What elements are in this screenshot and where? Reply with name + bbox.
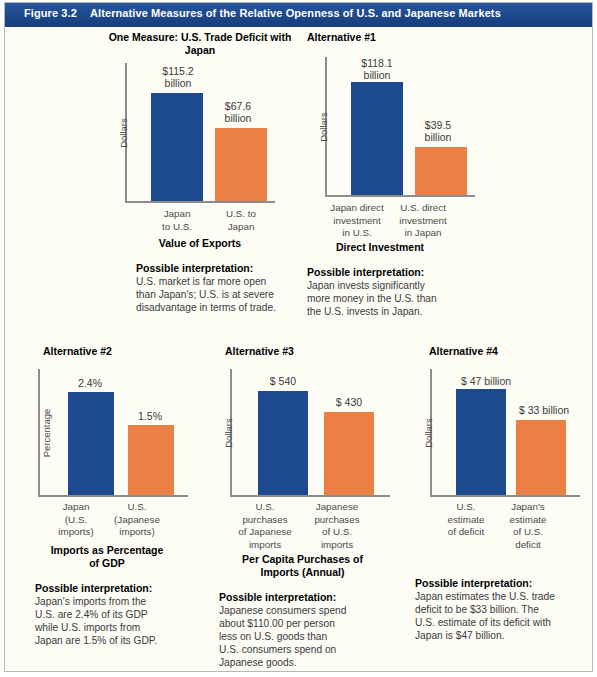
plot-area-alternative-3: Dollars $ 540 $ 430 bbox=[230, 369, 390, 497]
axis-caption-alternative-2: Imports as Percentage of GDP bbox=[23, 544, 191, 570]
chart-title-alternative-3: Alternative #3 bbox=[215, 345, 405, 358]
category-labels-alternative-1: Japan direct investment in U.S. U.S. dir… bbox=[305, 197, 455, 241]
chart-panel-alternative-1: Alternative #1 Dollars $118.1 billion $3… bbox=[305, 31, 495, 318]
chart-panel-alternative-3: Alternative #3 Dollars $ 540 $ 430 U.S. … bbox=[215, 345, 405, 669]
bar-value-label-2: $67.6 billion bbox=[205, 100, 271, 124]
interpretation-alternative-4: Possible interpretation: Japan estimates… bbox=[415, 577, 595, 642]
bar-value-label-1: $118.1 billion bbox=[341, 57, 413, 81]
axis-caption-alternative-1: Direct Investment bbox=[305, 241, 455, 254]
figure-header-text: Figure 3.2Alternative Measures of the Re… bbox=[24, 7, 501, 19]
y-axis-label-alternative-4: Dollars bbox=[423, 418, 434, 448]
bar-value-label-2: 1.5% bbox=[120, 410, 180, 422]
interpretation-body: Japan's imports from the U.S. are 2.4% o… bbox=[35, 595, 203, 647]
bar-japan-direct-investment-us bbox=[351, 82, 403, 195]
category-label-2: U.S. to Japan bbox=[199, 208, 283, 233]
figure-root: Figure 3.2Alternative Measures of the Re… bbox=[0, 0, 597, 677]
bar-value-label-1: $115.2 billion bbox=[143, 65, 213, 89]
chart-title-alternative-4: Alternative #4 bbox=[415, 345, 595, 358]
chart-title-one-measure: One Measure: U.S. Trade Deficit with Jap… bbox=[100, 31, 300, 57]
bar-value-label-1: 2.4% bbox=[60, 377, 120, 389]
plot-area-alternative-1: Dollars $118.1 billion $39.5 billion bbox=[325, 57, 475, 197]
category-labels-alternative-2: Japan (U.S. imports) U.S. (Japanese impo… bbox=[23, 497, 173, 541]
chart-panel-one-measure: One Measure: U.S. Trade Deficit with Jap… bbox=[100, 31, 300, 314]
bar-us-direct-investment-japan bbox=[415, 147, 467, 195]
y-axis-line bbox=[38, 369, 40, 497]
bar-us-purchases-japanese bbox=[258, 391, 308, 495]
figure-title: Alternative Measures of the Relative Ope… bbox=[90, 7, 501, 19]
interpretation-body: Japan invests significantly more money i… bbox=[307, 279, 495, 318]
interpretation-body: Japanese consumers spend about $110.00 p… bbox=[219, 604, 405, 669]
figure-header-bar: Figure 3.2Alternative Measures of the Re… bbox=[5, 3, 592, 27]
category-label-2: U.S. direct investment in Japan bbox=[377, 202, 469, 240]
bar-value-label-2: $ 430 bbox=[316, 396, 382, 408]
interpretation-heading: Possible interpretation: bbox=[136, 262, 300, 275]
category-label-2: Japanese purchases of U.S. imports bbox=[293, 501, 381, 551]
chart-title-alternative-2: Alternative #2 bbox=[23, 345, 203, 358]
chart-title-alternative-1: Alternative #1 bbox=[305, 31, 495, 44]
bar-us-japanese-imports bbox=[128, 425, 174, 495]
bar-japanese-purchases-us bbox=[324, 412, 374, 495]
y-axis-label-alternative-1: Dollars bbox=[318, 112, 329, 142]
interpretation-heading: Possible interpretation: bbox=[415, 577, 595, 590]
plot-area-alternative-2: Percentage 2.4% 1.5% bbox=[38, 369, 188, 497]
chart-panel-alternative-4: Alternative #4 Dollars $ 47 billion $ 33… bbox=[415, 345, 595, 642]
bar-us-to-japan bbox=[215, 128, 267, 201]
category-labels-alternative-3: U.S. purchases of Japanese imports Japan… bbox=[215, 497, 375, 553]
interpretation-alternative-2: Possible interpretation: Japan's imports… bbox=[23, 582, 203, 647]
y-axis-label-one-measure: Dollars bbox=[118, 118, 129, 148]
interpretation-heading: Possible interpretation: bbox=[35, 582, 203, 595]
interpretation-body: U.S. market is far more open than Japan'… bbox=[136, 275, 300, 314]
category-label-2: Japan's estimate of U.S. deficit bbox=[487, 501, 569, 551]
category-labels-alternative-4: U.S. estimate of deficit Japan's estimat… bbox=[415, 497, 565, 555]
category-label-2: U.S. (Japanese imports) bbox=[97, 501, 177, 539]
chart-panel-alternative-2: Alternative #2 Percentage 2.4% 1.5% Japa… bbox=[23, 345, 203, 647]
bar-japan-us-imports bbox=[68, 392, 114, 495]
bar-value-label-2: $39.5 billion bbox=[405, 119, 471, 143]
figure-content: One Measure: U.S. Trade Deficit with Jap… bbox=[5, 27, 592, 671]
category-labels-one-measure: Japan to U.S. U.S. to Japan bbox=[125, 203, 275, 235]
interpretation-alternative-1: Possible interpretation: Japan invests s… bbox=[305, 266, 495, 318]
bar-japan-estimate-us-deficit bbox=[516, 420, 566, 495]
plot-area-alternative-4: Dollars $ 47 billion $ 33 billion bbox=[430, 369, 580, 497]
axis-caption-one-measure: Value of Exports bbox=[100, 237, 300, 250]
interpretation-heading: Possible interpretation: bbox=[307, 266, 495, 279]
axis-caption-alternative-3: Per Capita Purchases of Imports (Annual) bbox=[215, 553, 390, 579]
bar-value-label-2: $ 33 billion bbox=[502, 404, 586, 416]
bar-us-estimate-deficit bbox=[456, 389, 506, 495]
interpretation-body: Japan estimates the U.S. trade deficit t… bbox=[415, 590, 595, 642]
interpretation-alternative-3: Possible interpretation: Japanese consum… bbox=[215, 591, 405, 669]
bar-value-label-1: $ 47 billion bbox=[444, 375, 528, 387]
interpretation-one-measure: Possible interpretation: U.S. market is … bbox=[100, 262, 300, 314]
interpretation-heading: Possible interpretation: bbox=[219, 591, 405, 604]
figure-number: Figure 3.2 bbox=[24, 7, 77, 19]
plot-area-one-measure: Dollars $115.2 billion $67.6 billion bbox=[125, 63, 275, 203]
bar-japan-to-us bbox=[151, 93, 203, 201]
bar-value-label-1: $ 540 bbox=[250, 375, 316, 387]
y-axis-label-alternative-2: Percentage bbox=[41, 409, 52, 458]
y-axis-label-alternative-3: Dollars bbox=[223, 418, 234, 448]
